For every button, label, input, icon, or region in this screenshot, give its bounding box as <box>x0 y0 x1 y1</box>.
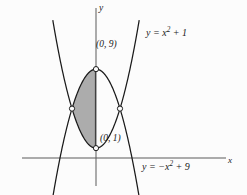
label-axis-y: y <box>99 4 103 14</box>
label-curve-lower-suffix: + 9 <box>173 161 190 172</box>
label-curve-upper: y = x2 + 1 <box>146 27 187 38</box>
label-axis-x: x <box>228 156 232 165</box>
label-curve-lower: y = −x2 + 9 <box>142 161 190 172</box>
label-point-bottom: (0, 1) <box>100 134 121 144</box>
figure-container: y = x2 + 1 y = −x2 + 9 (0, 9) (0, 1) y x <box>0 0 247 195</box>
label-curve-lower-prefix: y = −x <box>142 161 169 172</box>
parabola-plot <box>0 0 247 195</box>
marker-intersection-right <box>117 106 122 111</box>
label-curve-upper-suffix: + 1 <box>170 27 187 38</box>
marker-point-0-9 <box>93 67 98 72</box>
label-point-top: (0, 9) <box>96 40 117 50</box>
marker-intersection-left <box>69 106 74 111</box>
marker-point-0-1 <box>93 146 98 151</box>
label-curve-upper-prefix: y = x <box>146 27 167 38</box>
shaded-region <box>72 69 95 148</box>
